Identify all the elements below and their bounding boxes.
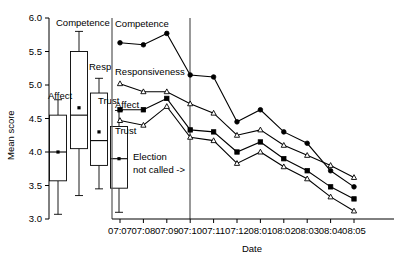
data-point-affect (282, 157, 286, 161)
boxplot (50, 100, 67, 215)
boxplot-label: Affect (48, 90, 72, 101)
boxplot-mean-marker (77, 106, 80, 109)
data-point-affect (165, 96, 169, 100)
x-tick-label: 08:01 (249, 225, 273, 236)
data-point-responsiveness (281, 143, 286, 148)
x-tick-label: 07:08 (132, 225, 156, 236)
series-label-affect: Affect (115, 99, 139, 110)
boxplot-box (50, 115, 67, 181)
data-point-affect (352, 197, 356, 201)
data-point-responsiveness (117, 81, 122, 86)
y-tick-label: 3.5 (29, 180, 42, 191)
y-axis-ticks: 3.03.54.04.55.05.56.0 (29, 12, 49, 224)
series-label-trust: Trust (115, 125, 137, 136)
data-point-affect (305, 169, 309, 173)
boxplot-mean-marker (97, 130, 100, 133)
data-point-competence (305, 141, 310, 146)
data-point-affect (211, 130, 215, 134)
x-tick-label: 08:02 (272, 225, 296, 236)
data-point-competence (282, 130, 287, 135)
boxplot-panel (50, 31, 128, 214)
y-tick-label: 4.0 (29, 146, 42, 157)
data-point-competence (165, 31, 170, 36)
boxplot-label: Competence (56, 17, 110, 28)
x-tick-label: 08:03 (295, 225, 319, 236)
chart-canvas: 3.03.54.04.55.05.56.0 Mean score AffectC… (0, 0, 401, 259)
chart-figure: 3.03.54.04.55.05.56.0 Mean score AffectC… (0, 0, 401, 259)
x-axis: 07:0707:0807:0907:1007:1107:1208:0108:02… (108, 219, 394, 254)
election-annotation: Election not called -> (133, 151, 185, 175)
x-tick-label: 07:12 (225, 225, 249, 236)
data-point-responsiveness (258, 127, 263, 132)
data-point-trust (164, 104, 169, 109)
y-tick-label: 3.0 (29, 213, 42, 224)
x-axis-title: Date (242, 243, 262, 254)
data-point-trust (258, 149, 263, 154)
data-point-affect (235, 150, 239, 154)
y-axis: 3.03.54.04.55.05.56.0 Mean score (5, 12, 49, 224)
y-tick-label: 5.5 (29, 46, 42, 57)
y-axis-title: Mean score (5, 110, 16, 160)
data-point-competence (118, 40, 123, 45)
data-point-competence (141, 43, 146, 48)
data-point-competence (188, 73, 193, 78)
data-point-competence (352, 185, 357, 190)
y-tick-label: 5.0 (29, 79, 42, 90)
data-point-trust (281, 164, 286, 169)
x-tick-label: 08:05 (342, 225, 366, 236)
x-tick-label: 07:10 (178, 225, 202, 236)
series-label-responsiveness: Responsiveness (115, 66, 185, 77)
series-lines (117, 31, 356, 213)
data-point-affect (328, 185, 332, 189)
data-point-competence (258, 107, 263, 112)
series-line-affect (120, 98, 354, 198)
data-point-trust (351, 208, 356, 213)
boxplot-label: Resp (89, 61, 111, 72)
boxplot-mean-marker (56, 150, 59, 153)
x-axis-ticks: 07:0707:0807:0907:1007:1107:1208:0108:02… (108, 219, 366, 236)
data-point-competence (211, 75, 216, 80)
election-note-line1: Election (133, 151, 167, 162)
y-tick-label: 4.5 (29, 113, 42, 124)
series-inline-labels: CompetenceResponsivenessAffectTrust (115, 18, 185, 136)
data-point-affect (141, 108, 145, 112)
data-point-affect (258, 140, 262, 144)
x-tick-label: 07:07 (108, 225, 132, 236)
data-point-affect (188, 128, 192, 132)
x-tick-label: 07:09 (155, 225, 179, 236)
boxplot-box (71, 52, 88, 149)
y-tick-label: 6.0 (29, 12, 42, 23)
election-note-line2: not called -> (133, 164, 185, 175)
boxplot (71, 31, 88, 195)
x-tick-label: 07:11 (202, 225, 225, 236)
data-point-trust (117, 118, 122, 123)
series-label-competence: Competence (115, 18, 169, 29)
data-point-competence (328, 168, 333, 173)
boxplot-mean-marker (117, 157, 120, 160)
x-tick-label: 08:04 (319, 225, 343, 236)
data-point-competence (235, 120, 240, 125)
